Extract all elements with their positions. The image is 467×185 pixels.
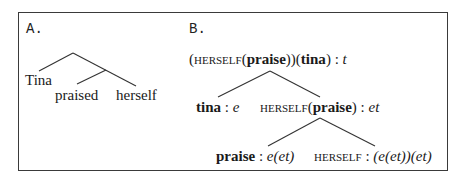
node-praise: praise : e(et) [216,149,294,164]
node-herself-praise: HERSELF(praise) : et [260,100,379,115]
node-tina: tina : e [196,100,239,115]
node-herself: HERSELF : (e(et))(et) [314,149,432,164]
node-root: (HERSELF(praise))(tina) : t [189,52,347,67]
